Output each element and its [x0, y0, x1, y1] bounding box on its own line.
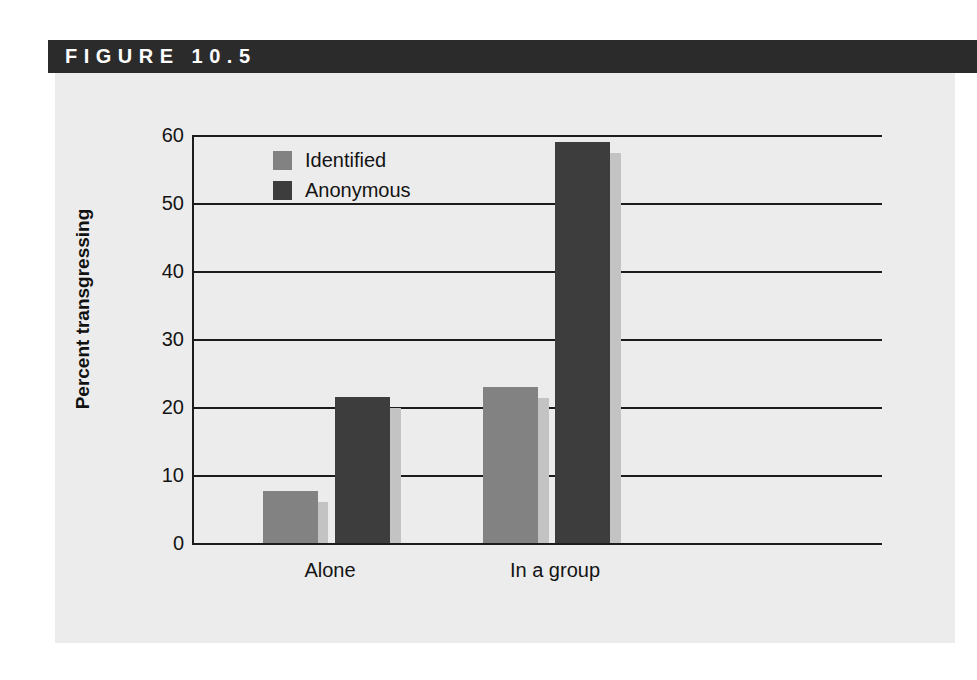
gridline-60: [192, 135, 882, 137]
legend-item-identified: Identified: [273, 145, 411, 175]
ytick-40: 40: [128, 260, 184, 284]
bar-shadow-identified-alone: [318, 502, 328, 543]
bar-identified-alone: [263, 491, 318, 543]
legend-item-anonymous: Anonymous: [273, 175, 411, 205]
ytick-10: 10: [128, 464, 184, 488]
gridline-40: [192, 271, 882, 273]
legend-swatch-identified-icon: [273, 151, 292, 170]
figure-header-bar: FIGURE 10.5: [48, 40, 977, 73]
figure-page: FIGURE 10.5 60 50 40 30: [0, 0, 977, 680]
ytick-60: 60: [128, 124, 184, 148]
plot-area: 60 50 40 30 20 10 0 Percent transgressin…: [55, 73, 955, 643]
bar-shadow-anonymous-group: [610, 153, 621, 543]
ytick-0: 0: [128, 532, 184, 556]
ytick-50: 50: [128, 192, 184, 216]
gridline-30: [192, 339, 882, 341]
category-label-alone: Alone: [250, 559, 410, 582]
bar-shadow-identified-group: [538, 398, 549, 543]
axis-line-x: [192, 543, 882, 545]
ytick-10-label: 10: [138, 464, 184, 487]
y-axis-title: Percent transgressing: [72, 159, 94, 459]
ytick-40-label: 40: [138, 260, 184, 283]
bar-shadow-anonymous-alone: [390, 408, 401, 543]
ytick-20: 20: [128, 396, 184, 420]
ytick-50-label: 50: [138, 192, 184, 215]
legend-label-identified: Identified: [305, 149, 386, 172]
chart-legend: Identified Anonymous: [273, 145, 411, 205]
ytick-0-label: 0: [138, 532, 184, 555]
legend-label-anonymous: Anonymous: [305, 179, 411, 202]
bar-anonymous-alone: [335, 397, 390, 543]
ytick-20-label: 20: [138, 396, 184, 419]
bar-identified-group: [483, 387, 538, 543]
bar-anonymous-group: [555, 142, 610, 543]
legend-swatch-anonymous-icon: [273, 181, 292, 200]
figure-number-label: FIGURE 10.5: [48, 45, 257, 68]
ytick-30: 30: [128, 328, 184, 352]
ytick-60-label: 60: [138, 124, 184, 147]
category-label-in-a-group: In a group: [465, 559, 645, 582]
ytick-30-label: 30: [138, 328, 184, 351]
chart-panel: 60 50 40 30 20 10 0 Percent transgressin…: [55, 73, 955, 643]
